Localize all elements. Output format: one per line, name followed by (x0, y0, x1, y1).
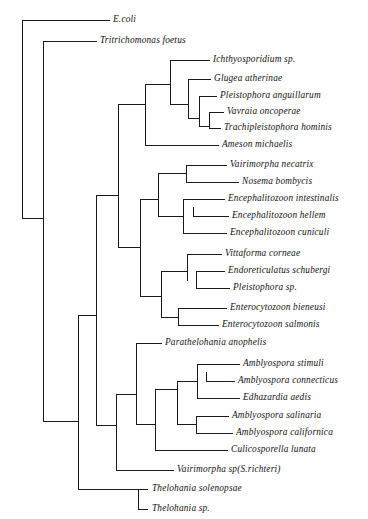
taxon-label: Ichthyosporidium sp. (213, 55, 295, 64)
taxon-label: Thelohania solenopsae (152, 484, 242, 493)
taxon-label: Amblyospora salinaria (232, 411, 321, 420)
taxon-label: Culicosporella lunata (231, 445, 316, 454)
taxon-label: Encephalitozoon hellem (232, 211, 326, 220)
taxon-label: Encephalitozoon intestinalis (228, 194, 339, 203)
taxon-label: Glugea atherinae (214, 74, 282, 83)
taxon-label: Tritrichomonas foetus (100, 36, 186, 45)
taxon-label: E.coli (113, 15, 136, 24)
taxon-label: Pleistophora anguillarum (220, 91, 321, 100)
taxon-label: Enterocytozoon salmonis (222, 320, 320, 329)
taxon-label: Vairimorpha sp(S.richteri) (177, 465, 280, 474)
taxon-label: Vairimorpha necatrix (230, 160, 314, 169)
taxon-label: Ameson michaelis (222, 140, 292, 149)
taxon-label: Endoreticulatus schubergi (228, 266, 330, 275)
taxon-label: Vittaforma corneae (225, 249, 300, 258)
taxon-label: Enterocytozoon bieneusi (230, 303, 326, 312)
taxon-label: Nosema bombycis (242, 177, 312, 186)
taxon-label: Vavraia oncoperae (227, 107, 301, 116)
taxon-label: Amblyospora californica (236, 428, 333, 437)
taxon-label: Amblyospora stimuli (243, 359, 324, 368)
taxon-label: Thelohania sp. (152, 504, 210, 513)
taxon-label: Encephalitozoon cuniculi (230, 228, 329, 237)
taxon-label: Pleistophora sp. (233, 283, 297, 292)
taxon-label: Amblyospora connecticus (238, 376, 338, 385)
tree-branches (0, 0, 368, 519)
phylogenetic-tree-figure: E.coliTritrichomonas foetusIchthyosporid… (0, 0, 368, 519)
taxon-label: Parathelohania anophelis (165, 338, 266, 347)
taxon-label: Edhazardia aedis (243, 393, 311, 402)
taxon-label: Trachipleistophora hominis (224, 123, 332, 132)
